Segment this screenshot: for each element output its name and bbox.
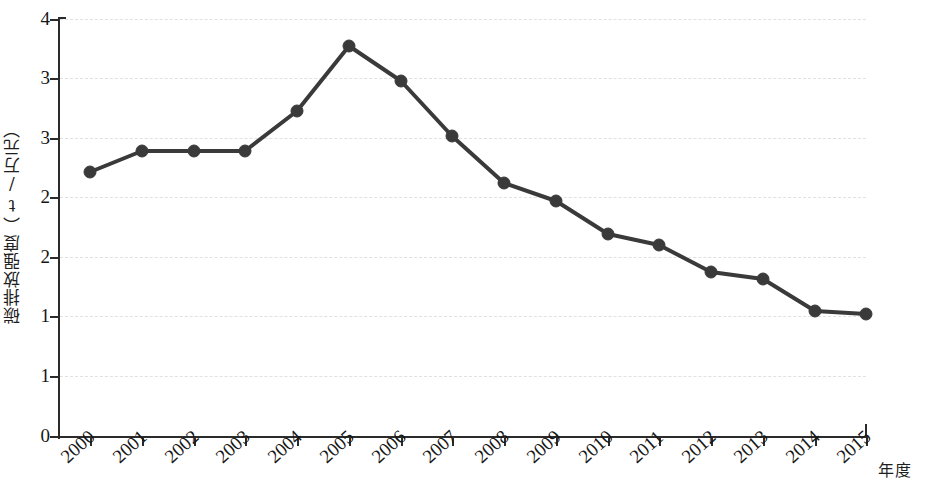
data-point-marker	[860, 308, 872, 320]
y-axis-top-cap	[58, 17, 66, 19]
x-axis-title: 年度	[878, 462, 912, 480]
x-tick-label: 2002	[161, 427, 202, 467]
y-tick-label: 4	[24, 9, 50, 28]
y-tick-label: 1	[24, 306, 50, 325]
data-point-marker	[84, 166, 96, 178]
x-tick-label: 2010	[575, 427, 616, 467]
x-tick-label: 2009	[523, 427, 564, 467]
data-point-marker	[446, 130, 458, 142]
data-point-marker	[291, 105, 303, 117]
gridline	[60, 19, 866, 21]
data-point-marker	[395, 75, 407, 87]
gridline	[60, 138, 866, 140]
x-tick-label: 2008	[471, 427, 512, 467]
gridline	[60, 257, 866, 259]
x-tick-label: 2004	[264, 427, 305, 467]
y-tick-label: 0	[24, 426, 50, 445]
data-point-marker	[136, 145, 148, 157]
series-layer	[0, 0, 925, 497]
y-axis-tick-labels: 43322110	[18, 0, 50, 497]
line-chart: 碳排放强度（t/万元） 43322110 2000200120022003200…	[0, 0, 925, 497]
y-tick-label: 1	[24, 366, 50, 385]
data-point-marker	[602, 228, 614, 240]
x-tick-label: 2003	[212, 427, 253, 467]
x-tick-label: 2000	[57, 427, 98, 467]
y-tick-label: 2	[24, 247, 50, 266]
x-tick-label: 2011	[626, 427, 666, 466]
y-tick-label: 3	[24, 128, 50, 147]
data-point-marker	[498, 177, 510, 189]
gridline	[60, 316, 866, 318]
y-axis-line	[58, 17, 60, 439]
x-tick-label: 2013	[730, 427, 771, 467]
data-point-marker	[705, 266, 717, 278]
y-tick-label: 2	[24, 187, 50, 206]
x-tick-label: 2012	[678, 427, 719, 467]
data-point-marker	[188, 145, 200, 157]
x-tick-label: 2006	[368, 427, 409, 467]
data-point-marker	[343, 40, 355, 52]
x-tick-label: 2007	[419, 427, 460, 467]
x-tick-label: 2001	[109, 427, 150, 467]
x-tick-label: 2005	[316, 427, 357, 467]
gridline	[60, 376, 866, 378]
data-point-marker	[653, 239, 665, 251]
x-tick-label: 2014	[782, 427, 823, 467]
gridline	[60, 78, 866, 80]
gridline	[60, 197, 866, 199]
x-tick-label: 2015	[833, 427, 874, 467]
y-tick-label: 3	[24, 68, 50, 87]
data-point-marker	[757, 273, 769, 285]
data-point-marker	[239, 145, 251, 157]
series-line	[90, 46, 866, 314]
